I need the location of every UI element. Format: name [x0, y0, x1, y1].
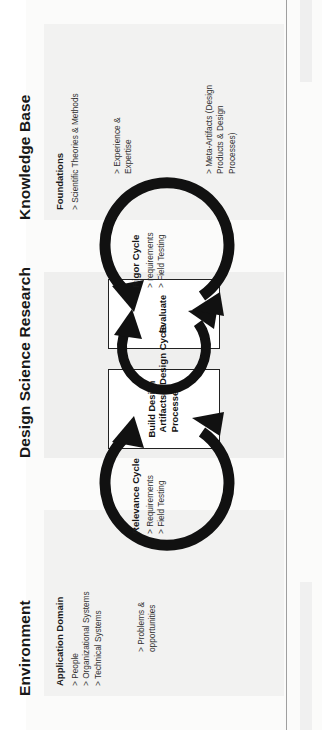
relevance-cycle-sub: > Requirements > Field Testing — [145, 475, 167, 534]
page-rule-bottom — [286, 0, 287, 730]
three-cycle-view-diagram: Environment Application Domain > People … — [0, 0, 322, 730]
scan-edge-artifact-right — [300, 0, 312, 82]
environment-section-heading: Application Domain — [54, 597, 65, 686]
knowledge-base-heading: Knowledge Base — [16, 95, 34, 220]
environment-heading: Environment — [16, 600, 34, 696]
rigor-cycle-label: Rigor Cycle — [130, 235, 141, 288]
relevance-cycle-label: Relevance Cycle — [130, 458, 141, 534]
scan-edge-artifact-left — [300, 582, 312, 730]
knowledge-base-items-foundations: > Scientific Theories & Methods — [70, 24, 81, 210]
knowledge-base-items-experience: > Experience & Expertise — [112, 24, 135, 174]
design-science-research-heading: Design Science Research — [16, 267, 34, 458]
knowledge-base-section-heading: Foundations — [54, 153, 65, 210]
figure-page: Environment Application Domain > People … — [0, 0, 322, 730]
rigor-cycle-sub: > requirements > Field Testing — [145, 232, 167, 288]
design-cycle-label: Design Cycle — [157, 325, 168, 385]
knowledge-base-items-meta-artifacts: > Meta-Artifacts (Design Products & Desi… — [204, 22, 238, 174]
rotated-figure-wrapper: Environment Application Domain > People … — [0, 0, 322, 730]
